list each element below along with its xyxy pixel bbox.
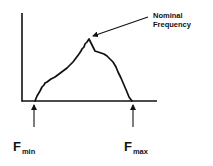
nominal-frequency-label: Nominal Frequency [153, 11, 191, 29]
fmin-subscript: min [22, 147, 35, 156]
nominal-frequency-arrow [93, 17, 148, 36]
fmin-base: F [13, 139, 21, 154]
nominal-frequency-line1: Nominal [153, 11, 191, 20]
nominal-frequency-line2: Frequency [153, 20, 191, 29]
distribution-curve [35, 39, 132, 101]
fmax-label: Fmax [124, 140, 148, 156]
fmax-subscript: max [133, 147, 148, 156]
fmax-base: F [124, 139, 132, 154]
fmin-label: Fmin [13, 140, 35, 156]
